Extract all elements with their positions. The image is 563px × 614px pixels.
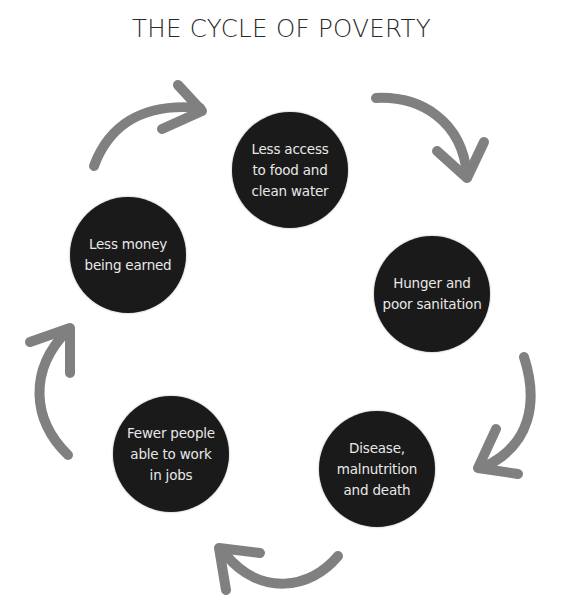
node-label: Fewer people able to work in jobs xyxy=(127,423,215,486)
arrow-icon xyxy=(478,357,531,474)
node-disease-malnutrition-death: Disease, malnutrition and death xyxy=(319,411,435,527)
node-less-access-food-water: Less access to food and clean water xyxy=(232,112,348,228)
node-label: Hunger and poor sanitation xyxy=(383,273,482,315)
arrow-icon xyxy=(376,98,484,178)
node-fewer-people-working: Fewer people able to work in jobs xyxy=(113,396,229,512)
arrow-icon xyxy=(30,328,70,455)
arrow-icon xyxy=(94,85,202,166)
node-label: Less money being earned xyxy=(85,234,172,276)
node-less-money-earned: Less money being earned xyxy=(70,197,186,313)
arrow-icon xyxy=(219,548,338,590)
node-label: Less access to food and clean water xyxy=(251,139,328,202)
node-hunger-sanitation: Hunger and poor sanitation xyxy=(374,236,490,352)
node-label: Disease, malnutrition and death xyxy=(337,438,417,501)
